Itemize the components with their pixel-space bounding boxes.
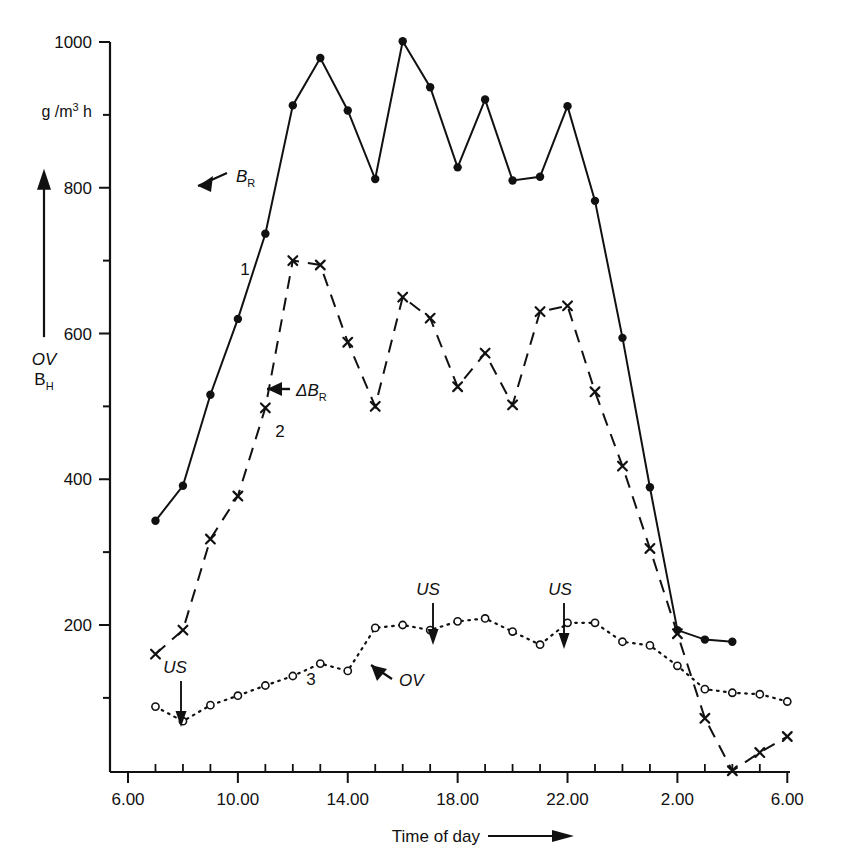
data-point xyxy=(316,54,324,62)
data-point xyxy=(372,624,379,631)
axes xyxy=(110,42,790,772)
data-point xyxy=(618,462,627,471)
x-tick-label: 6.00 xyxy=(771,790,804,809)
x-axis-title-group: Time of day xyxy=(392,827,574,846)
y-axis-unit-text: g /m3 h xyxy=(41,101,92,120)
data-point xyxy=(728,638,736,646)
data-point xyxy=(152,703,159,710)
us-arrow-head xyxy=(559,633,570,649)
data-point xyxy=(756,691,763,698)
data-point xyxy=(426,83,434,91)
series-1 xyxy=(151,37,736,646)
series-2 xyxy=(151,256,792,775)
x-axis-ticks: 6.0010.0014.0018.0022.002.006.00 xyxy=(111,764,803,809)
data-point xyxy=(454,618,461,625)
data-point xyxy=(729,689,736,696)
annotation-us-group: USUSUS xyxy=(163,580,572,727)
data-point xyxy=(426,314,435,323)
annotation-delta-br: ΔBR xyxy=(267,381,327,403)
series-number-labels: 123 xyxy=(240,260,315,689)
y-axis-name-bh: BH xyxy=(34,370,53,392)
data-point xyxy=(262,682,269,689)
x-tick-label: 14.00 xyxy=(326,790,369,809)
data-point xyxy=(289,101,297,109)
data-point xyxy=(646,483,654,491)
data-point xyxy=(344,667,351,674)
x-axis-arrow-head xyxy=(552,830,574,842)
us-label: US xyxy=(163,658,187,677)
x-tick-label: 2.00 xyxy=(661,790,694,809)
data-point xyxy=(646,642,653,649)
data-point xyxy=(564,619,571,626)
data-point xyxy=(234,315,242,323)
annotation-ov: OV xyxy=(371,665,425,690)
data-point xyxy=(371,175,379,183)
y-axis-name-ov: OV xyxy=(32,350,58,369)
us-arrow-head xyxy=(428,629,439,645)
data-point xyxy=(453,163,461,171)
data-point xyxy=(482,615,489,622)
data-point xyxy=(481,95,489,103)
us-label: US xyxy=(548,580,572,599)
data-point xyxy=(179,626,188,635)
data-point xyxy=(618,334,626,342)
delta-br-label: ΔBR xyxy=(295,381,327,403)
data-point xyxy=(317,660,324,667)
data-point xyxy=(481,349,490,358)
data-point xyxy=(674,662,681,669)
data-point xyxy=(783,732,792,741)
data-point xyxy=(784,698,791,705)
y-tick-label: 1000 xyxy=(54,33,92,52)
data-point xyxy=(591,387,600,396)
y-tick-label: 200 xyxy=(64,616,92,635)
chart-figure: 20040060080010006.0010.0014.0018.0022.00… xyxy=(0,0,856,861)
data-point xyxy=(261,229,269,237)
x-tick-label: 18.00 xyxy=(436,790,479,809)
y-axis-arrow-head xyxy=(37,169,51,190)
y-tick-label: 400 xyxy=(64,470,92,489)
br-label: BR xyxy=(236,167,255,189)
data-point xyxy=(701,635,709,643)
data-point xyxy=(646,544,655,553)
data-point xyxy=(179,482,187,490)
x-axis-title: Time of day xyxy=(392,827,481,846)
data-point xyxy=(701,686,708,693)
y-tick-label: 600 xyxy=(64,325,92,344)
x-tick-label: 22.00 xyxy=(546,790,589,809)
annotation-br: BR xyxy=(198,167,255,192)
data-point xyxy=(344,106,352,114)
data-point xyxy=(536,173,544,181)
data-point xyxy=(151,517,159,525)
x-tick-label: 6.00 xyxy=(111,790,144,809)
series-line-OV xyxy=(156,618,788,721)
series-number-3: 3 xyxy=(306,670,315,689)
data-point xyxy=(563,102,571,110)
y-axis-name-group: OVBH xyxy=(32,169,58,392)
series-number-2: 2 xyxy=(275,422,284,441)
ov-label: OV xyxy=(399,671,425,690)
x-tick-label: 10.00 xyxy=(217,790,260,809)
y-axis-unit-label: g /m3 h xyxy=(41,101,92,120)
dbr-arrow-head xyxy=(267,382,282,396)
y-tick-label: 800 xyxy=(64,179,92,198)
data-point xyxy=(563,301,572,310)
data-point xyxy=(206,535,215,544)
series-3 xyxy=(152,615,791,725)
series-number-1: 1 xyxy=(240,260,249,279)
data-point xyxy=(371,402,380,411)
data-point xyxy=(509,628,516,635)
data-point xyxy=(536,641,543,648)
data-point xyxy=(289,672,296,679)
data-point xyxy=(591,197,599,205)
data-point xyxy=(755,748,764,757)
data-point xyxy=(399,621,406,628)
series-line-BR xyxy=(156,261,788,771)
data-point xyxy=(399,37,407,45)
data-point xyxy=(207,702,214,709)
data-point xyxy=(234,692,241,699)
data-point xyxy=(508,176,516,184)
data-point xyxy=(206,391,214,399)
data-point xyxy=(151,650,160,659)
data-point xyxy=(453,382,462,391)
chart-svg: 20040060080010006.0010.0014.0018.0022.00… xyxy=(0,0,856,861)
